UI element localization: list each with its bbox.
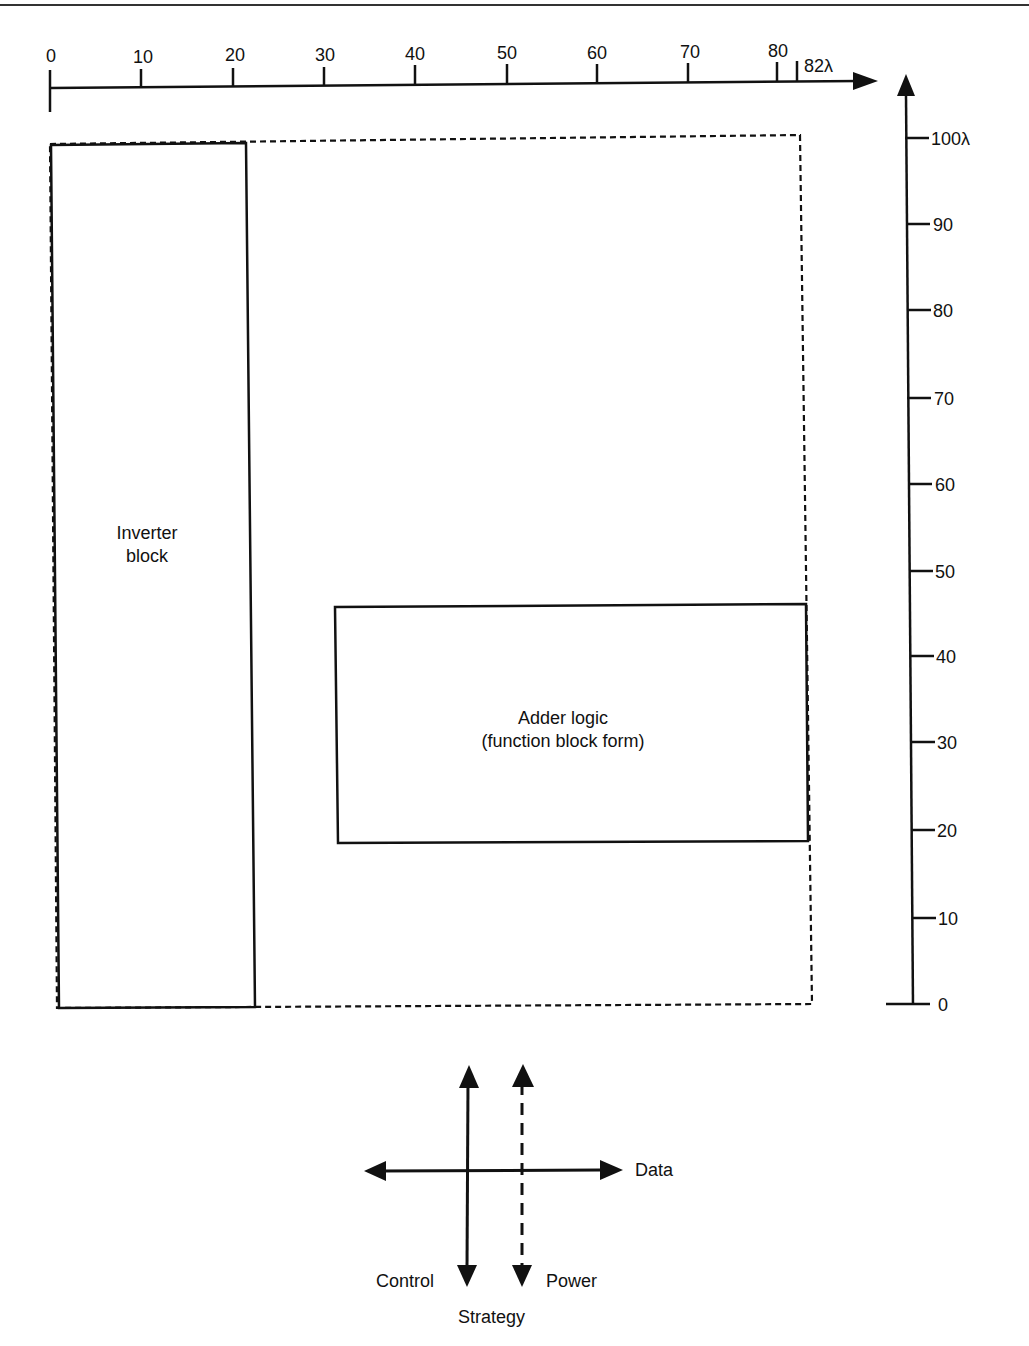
y-axis-arrowhead-icon: [897, 74, 915, 96]
strategy-compass: [378, 1083, 600, 1268]
adder-block-label: Adder logic (function block form): [481, 707, 644, 753]
x-axis-end-label: 82λ: [804, 56, 833, 76]
y-tick-label: 70: [934, 389, 954, 409]
x-axis-arrowhead-icon: [853, 72, 878, 90]
power-arrow-down-icon: [512, 1265, 532, 1287]
x-tick-label: 60: [587, 43, 607, 63]
y-tick-label: 40: [936, 647, 956, 667]
data-label: Data: [635, 1160, 673, 1180]
y-tick-label: 80: [933, 301, 953, 321]
inverter-label-line1: Inverter: [116, 522, 177, 545]
data-arrow-left-icon: [364, 1161, 386, 1181]
x-tick-label: 70: [680, 42, 700, 62]
y-tick-label: 10: [938, 909, 958, 929]
x-tick-label: 80: [768, 41, 788, 61]
adder-label-line2: (function block form): [481, 730, 644, 753]
adder-label-line1: Adder logic: [481, 707, 644, 730]
x-tick-label: 30: [315, 45, 335, 65]
y-tick-label: 60: [935, 475, 955, 495]
chip-boundary: [50, 135, 812, 1008]
control-label: Control: [376, 1271, 434, 1291]
control-arrow-up-icon: [459, 1065, 479, 1088]
y-axis-end-label: 100λ: [931, 129, 970, 149]
x-tick-label: 40: [405, 44, 425, 64]
y-tick-label: 20: [937, 821, 957, 841]
strategy-title: Strategy: [458, 1307, 525, 1327]
data-arrow-right-icon: [600, 1160, 623, 1180]
x-tick-label: 0: [46, 46, 56, 66]
y-tick-label: 50: [935, 562, 955, 582]
x-tick-label: 50: [497, 43, 517, 63]
inverter-label-line2: block: [116, 545, 177, 568]
floorplan-diagram: [0, 0, 1029, 1346]
control-arrow-down-icon: [457, 1265, 477, 1287]
inverter-block-label: Inverter block: [116, 522, 177, 568]
y-tick-label: 30: [937, 733, 957, 753]
power-label: Power: [546, 1271, 597, 1291]
inverter-block: [51, 143, 255, 1008]
y-axis: [886, 95, 936, 1005]
x-axis: [50, 61, 860, 112]
x-tick-label: 10: [133, 47, 153, 67]
y-tick-label: 0: [938, 995, 948, 1015]
y-tick-label: 90: [933, 215, 953, 235]
power-arrow-up-icon: [512, 1064, 534, 1087]
x-tick-label: 20: [225, 45, 245, 65]
